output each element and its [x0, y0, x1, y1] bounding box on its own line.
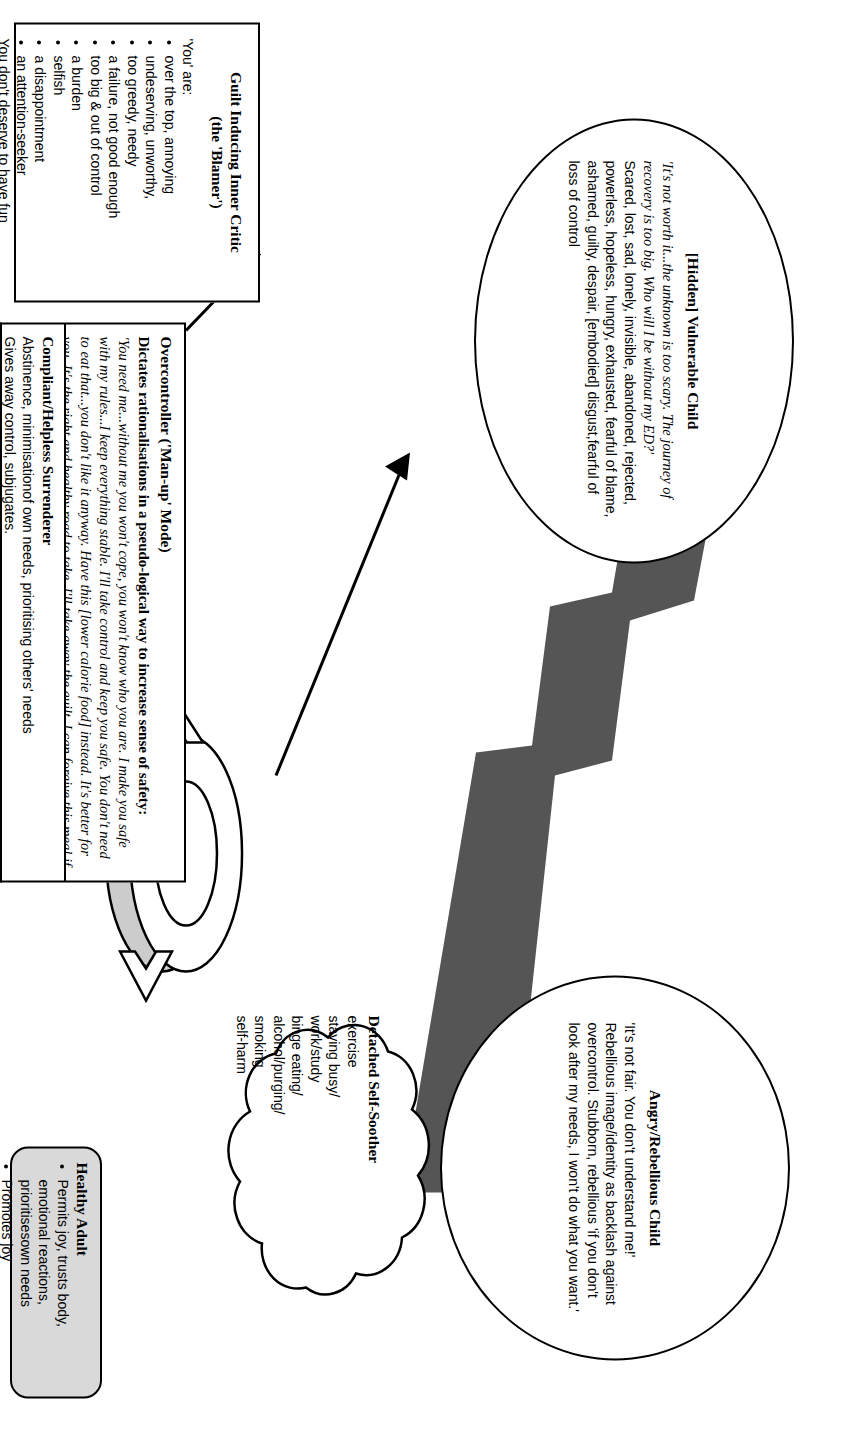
list-item: undeserving, unworthy, [142, 55, 160, 286]
connector-overcontroller-to-vulnerable-child [276, 455, 407, 775]
list-item: staying busy/ [325, 1015, 343, 1265]
list-item: Permits joy, trusts body, emotional reac… [16, 1179, 71, 1382]
node-vulnerable-child[interactable]: [Hidden] Vulnerable Child 'It's not wort… [474, 118, 794, 563]
compliant-surrenderer-line-2: Gives away control, subjugates. [0, 336, 18, 868]
compliant-surrenderer-line-1: Abstinence, minimisationof own needs, pr… [19, 336, 37, 868]
list-item: self-harm [232, 1015, 250, 1265]
list-item: a disappointment [31, 55, 49, 286]
vulnerable-child-heading: [Hidden] Vulnerable Child [684, 160, 703, 521]
node-compliant-helpless-surrenderer[interactable]: Compliant/Helpless Surrenderer Abstinenc… [0, 322, 64, 882]
node-angry-rebellious-child[interactable]: Angry/Rebellious Child 'It's not fair. Y… [440, 975, 790, 1360]
list-item: a burden [68, 55, 86, 286]
vulnerable-child-feelings: Scared, lost, sad, lonely, invisible, ab… [565, 160, 639, 521]
arrowhead-to-vulnerable-child [385, 452, 410, 480]
overcontroller-heading: Overcontroller ('Man-up' Mode) [157, 336, 176, 868]
node-detached-self-soother[interactable]: Detached Self-Soother exercise staying b… [132, 955, 432, 1330]
node-guilt-inducing-inner-critic[interactable]: Guilt Inducing Inner Critic (the 'Blamer… [14, 22, 260, 302]
diagram-page: [Hidden] Vulnerable Child 'It's not wort… [0, 0, 862, 1433]
list-item: smoking [251, 1015, 269, 1265]
healthy-adult-heading: Healthy Adult [73, 1162, 92, 1382]
list-item: exercise [343, 1015, 361, 1265]
angry-child-body: 'It's not fair. You don't understand me!… [565, 1022, 639, 1313]
angry-child-heading: Angry/Rebellious Child [646, 1022, 665, 1313]
inner-critic-lead: 'You' are: [179, 38, 197, 286]
list-item: a failure, not good enough [105, 55, 123, 286]
list-item: binge eating/ [288, 1015, 306, 1265]
list-item: too big & out of control [86, 55, 104, 286]
list-item: work/study [306, 1015, 324, 1265]
compliant-surrenderer-heading: Compliant/Helpless Surrenderer [37, 336, 57, 868]
list-item: over the top, annoying [160, 55, 178, 286]
healthy-adult-bullets: Permits joy, trusts body, emotional reac… [0, 1162, 72, 1382]
inner-critic-heading-line-1: Guilt Inducing Inner Critic [227, 38, 246, 286]
inner-critic-tail-lines: You don't deserve to have fun You don't … [0, 38, 13, 286]
list-item: selfish [50, 55, 68, 286]
node-overcontroller[interactable]: Overcontroller ('Man-up' Mode) Dictates … [64, 322, 186, 882]
list-item: alcohol/purging/ [269, 1015, 287, 1265]
diagram-canvas: [Hidden] Vulnerable Child 'It's not wort… [0, 0, 862, 1433]
overcontroller-subheading: Dictates rationalisations in a pseudo-lo… [134, 336, 153, 868]
node-healthy-adult[interactable]: Healthy Adult Permits joy, trusts body, … [10, 1146, 102, 1398]
inner-critic-heading-line-2: (the 'Blamer') [207, 38, 226, 286]
vulnerable-child-quote: 'It's not worth it...the unknown is too … [639, 160, 677, 521]
detached-self-soother-text: Detached Self-Soother exercise staying b… [232, 1015, 384, 1265]
list-item: too greedy, needy [123, 55, 141, 286]
inner-critic-bullets: over the top, annoying undeserving, unwo… [13, 38, 179, 286]
list-item: an attention-seeker [13, 55, 31, 286]
detached-self-soother-list: exercise staying busy/ work/study binge … [232, 1015, 361, 1265]
list-item: Promotes joy [0, 1179, 16, 1382]
list-item: You don't deserve to have fun [0, 38, 13, 286]
detached-self-soother-heading: Detached Self-Soother [365, 1015, 384, 1265]
